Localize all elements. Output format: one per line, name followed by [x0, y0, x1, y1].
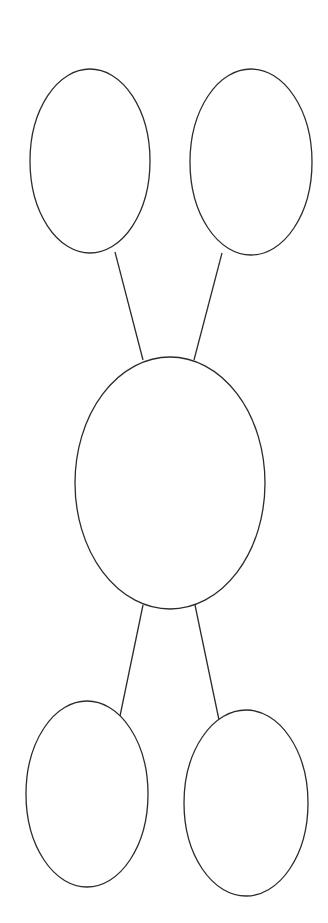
- bubble-bottom-left: [26, 701, 148, 887]
- edge-center-to-bottom-right: [195, 605, 219, 720]
- nodes: [26, 69, 312, 896]
- bubble-center: [75, 357, 265, 609]
- bubble-top-left: [30, 69, 150, 253]
- edge-top-right-to-center: [194, 253, 222, 360]
- edge-top-left-to-center: [115, 252, 143, 360]
- edge-center-to-bottom-left: [120, 605, 143, 716]
- bubble-diagram: [0, 0, 328, 923]
- bubble-bottom-right: [184, 710, 308, 896]
- bubble-top-right: [190, 69, 312, 255]
